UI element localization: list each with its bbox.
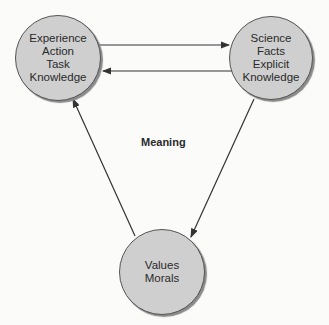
node-line: Morals (145, 272, 180, 285)
node-values: Values Morals (119, 229, 205, 315)
node-line: Values (145, 259, 179, 272)
edge-science-to-values (191, 99, 254, 237)
node-line: Facts (257, 45, 285, 58)
node-line: Knowledge (30, 71, 87, 84)
node-line: Action (42, 45, 74, 58)
node-line: Science (251, 32, 292, 45)
node-science: Science Facts Explicit Knowledge (229, 16, 313, 100)
node-line: Task (46, 58, 70, 71)
node-line: Knowledge (243, 71, 300, 84)
center-label: Meaning (141, 136, 186, 148)
edge-values-to-experience (73, 99, 135, 236)
node-experience: Experience Action Task Knowledge (15, 15, 101, 101)
node-line: Explicit (253, 58, 289, 71)
node-line: Experience (29, 32, 87, 45)
